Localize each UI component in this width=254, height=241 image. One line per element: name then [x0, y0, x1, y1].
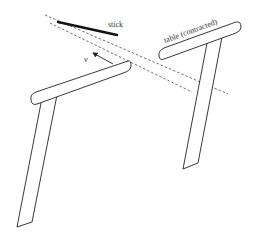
left-tabletop	[31, 61, 131, 105]
right-table-leg	[183, 37, 222, 169]
left-table-leg	[17, 95, 57, 227]
velocity-label: v	[84, 55, 88, 64]
stick-label: stick	[108, 20, 123, 29]
diagram-canvas: stick v table (contracted)	[0, 0, 254, 241]
diagram-svg: stick v table (contracted)	[0, 0, 254, 241]
velocity-arrow-icon	[93, 53, 113, 64]
